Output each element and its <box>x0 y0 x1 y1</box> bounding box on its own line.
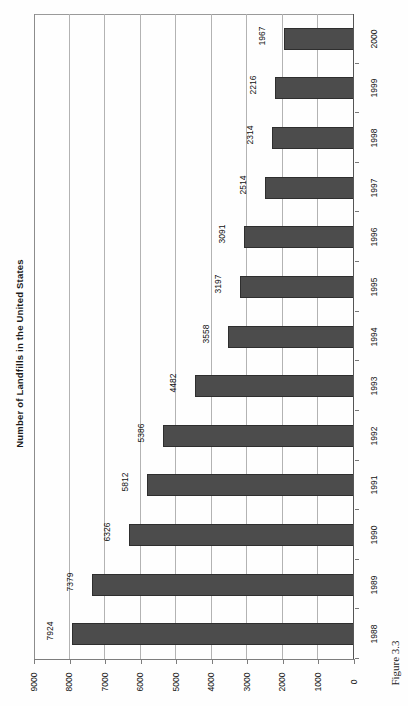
value-axis: 9000800070006000500040003000200010000 <box>34 659 355 703</box>
category-label: 1994 <box>359 312 389 362</box>
value-tick <box>354 659 355 664</box>
bar <box>265 177 354 199</box>
bar-row: 2314 <box>34 113 354 163</box>
value-tick-label-text: 3000 <box>242 673 252 692</box>
bar <box>72 623 354 645</box>
category-label: 1998 <box>359 113 389 163</box>
category-label: 1990 <box>359 510 389 560</box>
value-tick <box>283 659 284 664</box>
category-label-text: 1995 <box>369 277 379 296</box>
bar <box>228 326 355 348</box>
bar-row: 2216 <box>34 64 354 114</box>
value-tick <box>247 659 248 664</box>
value-tick-label: 9000 <box>17 665 51 701</box>
bar <box>272 127 354 149</box>
value-tick-label: 5000 <box>159 665 193 701</box>
category-label: 2000 <box>359 14 389 64</box>
bar-value-label: 1967 <box>257 16 267 56</box>
bar-row: 1967 <box>34 14 354 64</box>
value-tick-label: 1000 <box>301 665 335 701</box>
category-label-text: 1993 <box>369 377 379 396</box>
category-label: 1992 <box>359 411 389 461</box>
figure-caption: Figure 3.3 <box>384 624 406 702</box>
bar-value-label: 2514 <box>238 165 248 205</box>
bar-value-label: 3091 <box>217 214 227 254</box>
value-tick-label-text: 7000 <box>100 673 110 692</box>
category-label-text: 1997 <box>369 178 379 197</box>
figure-root: Number of Landfills in the United States… <box>0 0 408 706</box>
category-label-text: 1988 <box>369 625 379 644</box>
value-axis-baseline <box>353 14 354 659</box>
bar <box>284 28 354 50</box>
bar-value-label: 5812 <box>120 462 130 502</box>
category-label-text: 1989 <box>369 575 379 594</box>
bar-row: 7924 <box>34 609 354 659</box>
bar-value-label: 6326 <box>102 512 112 552</box>
value-tick-label: 6000 <box>124 665 158 701</box>
value-tick-label-text: 0 <box>349 680 359 685</box>
bar-value-label: 4482 <box>168 363 178 403</box>
category-label-text: 1994 <box>369 327 379 346</box>
bar-row: 2514 <box>34 163 354 213</box>
value-tick-label-text: 8000 <box>65 673 75 692</box>
category-label-text: 1990 <box>369 526 379 545</box>
bar <box>195 375 354 397</box>
value-tick <box>212 659 213 664</box>
category-label-text: 1992 <box>369 426 379 445</box>
category-label: 1999 <box>359 64 389 114</box>
bar-row: 3091 <box>34 212 354 262</box>
category-label-text: 1999 <box>369 79 379 98</box>
value-tick <box>176 659 177 664</box>
plot-area: 7924737963265812538644823558319730912514… <box>34 14 354 659</box>
category-label-text: 1991 <box>369 476 379 495</box>
value-tick-label-text: 1000 <box>313 673 323 692</box>
value-tick-label: 7000 <box>88 665 122 701</box>
bar <box>147 474 354 496</box>
category-label-text: 1996 <box>369 228 379 247</box>
bar-row: 5386 <box>34 411 354 461</box>
value-tick-label: 4000 <box>195 665 229 701</box>
bar-row: 6326 <box>34 510 354 560</box>
category-label: 1997 <box>359 163 389 213</box>
value-tick-label-text: 4000 <box>207 673 217 692</box>
chart-title: Number of Landfills in the United States <box>6 0 32 706</box>
category-label: 1989 <box>359 560 389 610</box>
bar-row: 7379 <box>34 560 354 610</box>
category-label-text: 2000 <box>369 29 379 48</box>
category-label: 1996 <box>359 212 389 262</box>
figure-caption-text: Figure 3.3 <box>389 640 401 685</box>
bar <box>275 77 354 99</box>
value-tick <box>70 659 71 664</box>
value-tick-label-text: 9000 <box>29 673 39 692</box>
bar-value-label: 2314 <box>245 115 255 155</box>
chart-title-text: Number of Landfills in the United States <box>14 259 25 448</box>
bar-row: 3197 <box>34 262 354 312</box>
bar-value-label: 3558 <box>201 314 211 354</box>
value-tick-label-text: 2000 <box>278 673 288 692</box>
bar <box>240 276 354 298</box>
value-tick-label: 3000 <box>230 665 264 701</box>
value-tick-label-text: 6000 <box>136 673 146 692</box>
bar <box>163 425 355 447</box>
value-tick <box>318 659 319 664</box>
bar-value-label: 3197 <box>213 264 223 304</box>
category-axis: 1988198919901991199219931994199519961997… <box>355 14 387 659</box>
value-tick-label: 0 <box>337 665 371 701</box>
value-tick-label-text: 5000 <box>171 673 181 692</box>
bar <box>244 226 354 248</box>
value-tick <box>141 659 142 664</box>
bar <box>129 524 354 546</box>
bar-value-label: 7379 <box>65 562 75 602</box>
category-label-text: 1998 <box>369 129 379 148</box>
category-label: 1993 <box>359 361 389 411</box>
bar-row: 3558 <box>34 312 354 362</box>
value-tick-label: 2000 <box>266 665 300 701</box>
bar-value-label: 5386 <box>136 413 146 453</box>
category-label: 1991 <box>359 461 389 511</box>
value-tick-label: 8000 <box>53 665 87 701</box>
bar-row: 5812 <box>34 461 354 511</box>
bar-value-label: 2216 <box>248 65 258 105</box>
value-axis-line <box>34 659 355 660</box>
bar <box>92 574 354 596</box>
category-label: 1995 <box>359 262 389 312</box>
